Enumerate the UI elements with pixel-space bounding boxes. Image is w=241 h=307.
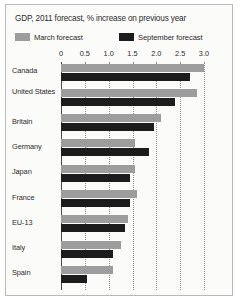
bar-september-forecast (61, 174, 130, 182)
bar-september-forecast (61, 98, 175, 106)
category-label: Germany (12, 143, 58, 152)
bar-september-forecast (61, 148, 149, 156)
category-label: Japan (12, 168, 58, 177)
bar-rows: CanadaUnited StatesBritainGermanyJapanFr… (6, 62, 232, 290)
legend-label-september-forecast: September forecast (138, 33, 202, 42)
legend-label-march-forecast: March forecast (34, 33, 83, 42)
category-label: Canada (12, 67, 58, 76)
bar-march-forecast (61, 190, 137, 198)
x-axis-tick-label: 1.5 (127, 49, 137, 58)
bar-row: Japan (6, 163, 232, 188)
category-label: Spain (12, 269, 58, 278)
legend-entry-september-forecast: September forecast (119, 31, 202, 43)
bar-march-forecast (61, 114, 161, 122)
legend-swatch-september-forecast (119, 33, 134, 41)
x-axis-tick-label: 1.0 (104, 49, 114, 58)
category-label: France (12, 194, 58, 203)
bar-september-forecast (61, 250, 113, 258)
bar-row: France (6, 189, 232, 214)
chart-card: GDP, 2011 forecast, % increase on previo… (5, 4, 233, 296)
bar-september-forecast (61, 123, 154, 131)
legend-entry-march-forecast: March forecast (15, 31, 83, 43)
bar-march-forecast (61, 64, 204, 72)
bar-row: Britain (6, 113, 232, 138)
bar-row: Spain (6, 264, 232, 289)
category-label: Britain (12, 118, 58, 127)
bar-march-forecast (61, 139, 135, 147)
category-label: United States (12, 88, 58, 97)
chart-legend: March forecast September forecast (15, 31, 229, 43)
bar-row: Germany (6, 138, 232, 163)
x-axis-tick-label: 2.0 (151, 49, 161, 58)
x-axis-tick-label: 3.0 (199, 49, 209, 58)
bar-row: United States (6, 87, 232, 112)
bar-row: EU-13 (6, 214, 232, 239)
bar-row: Canada (6, 62, 232, 87)
bar-september-forecast (61, 275, 87, 283)
bar-march-forecast (61, 266, 113, 274)
legend-swatch-march-forecast (15, 33, 30, 41)
x-axis-tick-label: 0 (59, 49, 63, 58)
x-axis-tick-labels: 00.51.01.52.02.53.0 (6, 49, 232, 61)
chart-title: GDP, 2011 forecast, % increase on previo… (15, 14, 227, 24)
category-label: Italy (12, 244, 58, 253)
bar-march-forecast (61, 215, 128, 223)
plot-area: 00.51.01.52.02.53.0 CanadaUnited StatesB… (6, 49, 232, 295)
bar-march-forecast (61, 165, 135, 173)
x-axis-tick-label: 2.5 (175, 49, 185, 58)
bar-september-forecast (61, 73, 190, 81)
bar-september-forecast (61, 199, 130, 207)
bar-march-forecast (61, 241, 121, 249)
bar-row: Italy (6, 239, 232, 264)
bar-september-forecast (61, 224, 125, 232)
category-label: EU-13 (12, 219, 58, 228)
bar-march-forecast (61, 89, 197, 97)
x-axis-tick-label: 0.5 (80, 49, 90, 58)
